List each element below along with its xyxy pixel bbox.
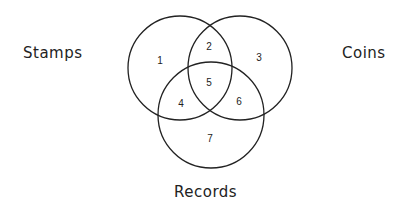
region-all-three: 5 [206, 77, 212, 88]
region-coins-only: 3 [256, 52, 262, 63]
coins-label: Coins [342, 44, 386, 62]
region-records-only: 7 [207, 133, 213, 144]
region-stamps-only: 1 [157, 55, 163, 66]
region-stamps-records: 4 [178, 98, 184, 109]
stamps-label: Stamps [23, 44, 83, 62]
region-stamps-coins: 2 [206, 41, 212, 52]
venn-diagram: Stamps Coins Records 1 2 3 4 5 6 7 [0, 0, 412, 204]
records-label: Records [174, 183, 237, 201]
region-coins-records: 6 [236, 96, 242, 107]
